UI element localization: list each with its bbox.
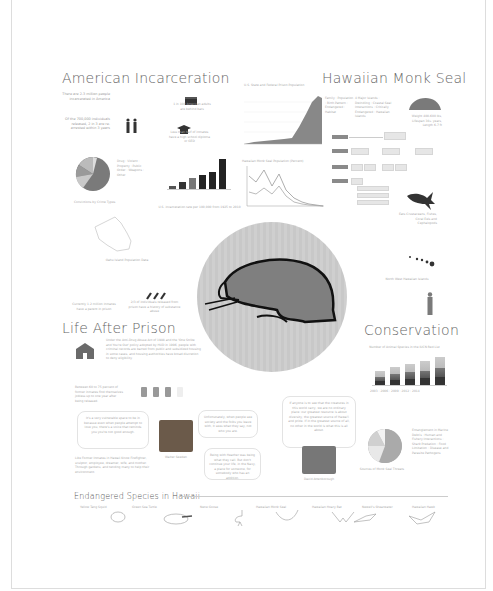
species-green-sea-turtle: Green Sea Turtle <box>132 505 157 510</box>
species-nene-goose: Nene Goose <box>200 505 218 510</box>
nene-goose-icon <box>230 508 248 526</box>
stat-substance: 2/3 of individuals released from prison … <box>127 300 182 314</box>
conservation-subtitle: Number of Animal Species in the IUCN Red… <box>357 345 452 350</box>
iucn-stacked-bar-chart <box>372 355 447 386</box>
hawk-icon <box>407 510 437 526</box>
threats-legend: Entanglement in Marine Debris · Human an… <box>412 428 450 455</box>
crime-types-pie-chart <box>75 156 111 196</box>
human-scale-icon <box>426 292 434 320</box>
infographic-page: American Incarceration There are 2.3 mil… <box>11 0 486 589</box>
house-icon <box>76 343 94 363</box>
title-life-after-prison: Life After Prison <box>62 320 176 336</box>
line-chart-title: Hawaiian Monk Seal Population (Percent) <box>242 159 322 164</box>
footer-text: Like Former Inmates in Hawaii Know Firef… <box>75 456 155 474</box>
person1-name: Walter Seeden <box>159 455 193 460</box>
taxonomy-values: 4 Major Islands · Dwindling · Coastal Se… <box>355 96 395 119</box>
prison-population-area-chart <box>244 92 324 151</box>
monk-seal-silhouette-icon <box>407 92 443 116</box>
hero-circle <box>197 222 347 372</box>
threats-pie-chart <box>367 428 403 468</box>
title-conservation: Conservation <box>364 322 459 338</box>
bar-categories: 2003 · 2006 · 2009 · 2012 · 2014 <box>370 389 450 394</box>
area-chart-title: U.S. State and Federal Prison Population <box>244 83 324 88</box>
monk-seal-population-line-chart <box>244 164 326 214</box>
monk-seal-illustration <box>197 222 347 372</box>
species-newells-shearwater: Newell's Shearwater <box>362 505 393 510</box>
stat-incarcerated: There are 2.3 million people incarcerate… <box>62 92 110 101</box>
sea-turtle-icon <box>162 512 194 526</box>
quote-bubble-attenborough: If anyone is to see that the creatures i… <box>282 396 356 448</box>
quote-bubble-3: Being with Heather was being what they c… <box>204 448 261 480</box>
jobless-stat: Between 60 to 75 percent of former inmat… <box>75 385 125 403</box>
thumbs-down-icons <box>139 384 189 403</box>
box-caption: 1 in 100 American adults are behind bars <box>172 102 212 111</box>
map-caption: Oahu Island Population Data <box>97 258 157 263</box>
cap-caption: Less than half of inmates have a high sc… <box>167 130 212 144</box>
fish-icon <box>108 510 128 526</box>
pie-caption: Convictions by Crime Types <box>74 200 134 205</box>
divider <box>180 496 448 497</box>
bar-caption: U.S. incarceration rate per 100,000 from… <box>152 205 247 210</box>
hawaiian-islands-map <box>407 253 437 272</box>
quote-bubble-1: It's a very vulnerable space to be in be… <box>77 411 149 449</box>
species-hawaiian-hoary-bat: Hawaiian Hoary Bat <box>312 505 342 510</box>
size-caption: Weight 400-600 lbs, Lifespan 30+ years, … <box>402 114 442 128</box>
avatar-david-attenborough <box>302 446 336 474</box>
incarceration-rate-bar-chart <box>167 157 231 190</box>
pie-legend: Drug · Violent · Property · Public Order… <box>117 159 147 177</box>
oahu-island-map <box>87 215 147 259</box>
islands-caption: North West Hawaiian Islands <box>377 277 437 282</box>
title-endangered-species: Endangered Species in Hawaii <box>74 492 200 501</box>
seal-sketch-icon <box>274 508 300 526</box>
stat-parents: Currently 1.2 million inmates have a par… <box>70 302 118 311</box>
species-yellow-tang-squid: Yellow Tang Squid <box>80 505 107 510</box>
quote-bubble-2: Unfortunately, when people see society a… <box>198 410 258 438</box>
avatar-walter-seeden <box>159 420 193 452</box>
stat-rearrested: Of the 700,000 individuals released, 2 i… <box>62 117 110 131</box>
housing-policy-text: Under the Anti-Drug Abuse Act of 1988 an… <box>106 338 201 361</box>
threats-caption: Sources of Monk Seal Threats <box>357 467 407 472</box>
taxonomy-labels: Family · Population · Birth Pattern · En… <box>325 96 355 114</box>
shearwater-icon <box>352 512 378 524</box>
diet-caption: Eats Crustaceans, Fishes, Coral Eels and… <box>397 212 437 226</box>
title-hawaiian-monk-seal: Hawaiian Monk Seal <box>322 70 466 86</box>
people-icon <box>125 118 139 138</box>
species-hawaiian-hawk: Hawaiian Hawk <box>412 505 435 510</box>
person2-name: David Attenborough <box>297 477 341 482</box>
title-american-incarceration: American Incarceration <box>62 70 230 86</box>
